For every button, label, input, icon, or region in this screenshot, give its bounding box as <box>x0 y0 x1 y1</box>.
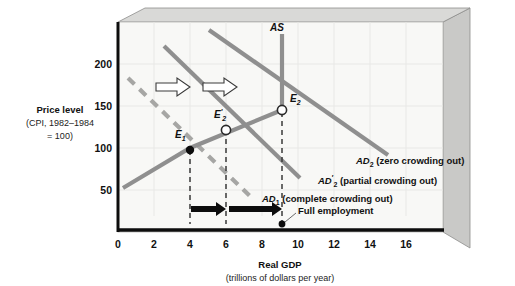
point-e2-marker <box>277 105 286 114</box>
point-e1-marker <box>186 146 194 154</box>
x-tick-2: 2 <box>151 238 157 250</box>
point-e2-prime-marker <box>221 125 230 134</box>
panel-side-face <box>443 8 470 248</box>
x-tick-14: 14 <box>364 238 376 250</box>
label-full-employment: Full employment <box>298 205 374 216</box>
x-tick-labels: 0 2 4 6 8 10 12 14 16 <box>115 238 412 250</box>
x-tick-12: 12 <box>328 238 340 250</box>
x-tick-6: 6 <box>223 238 229 250</box>
x-tick-8: 8 <box>259 238 265 250</box>
y-axis-title-line1: Price level <box>36 104 83 115</box>
y-axis-title-line2: (CPI, 1982–1984 <box>26 118 94 128</box>
x-tick-4: 4 <box>187 238 193 250</box>
x-tick-0: 0 <box>115 238 121 250</box>
curve-label-as: AS <box>269 22 284 33</box>
y-tick-labels: 200 150 100 50 <box>94 58 112 196</box>
panel-top-face <box>118 8 470 22</box>
y-tick-100: 100 <box>94 142 112 154</box>
x-axis-title: Real GDP <box>258 259 302 270</box>
y-tick-50: 50 <box>100 184 112 196</box>
chart-svg: AS E1 E′2 E2 AD2 (zero crowding out) AD′… <box>0 0 515 286</box>
x-axis-subtitle: (trillions of dollars per year) <box>226 273 335 283</box>
y-tick-150: 150 <box>94 100 112 112</box>
x-tick-10: 10 <box>292 238 304 250</box>
y-tick-200: 200 <box>94 58 112 70</box>
chart-figure: AS E1 E′2 E2 AD2 (zero crowding out) AD′… <box>0 0 515 286</box>
full-employment-dot <box>279 221 286 228</box>
x-tick-16: 16 <box>400 238 412 250</box>
y-axis-title-line3: = 100) <box>47 131 73 141</box>
